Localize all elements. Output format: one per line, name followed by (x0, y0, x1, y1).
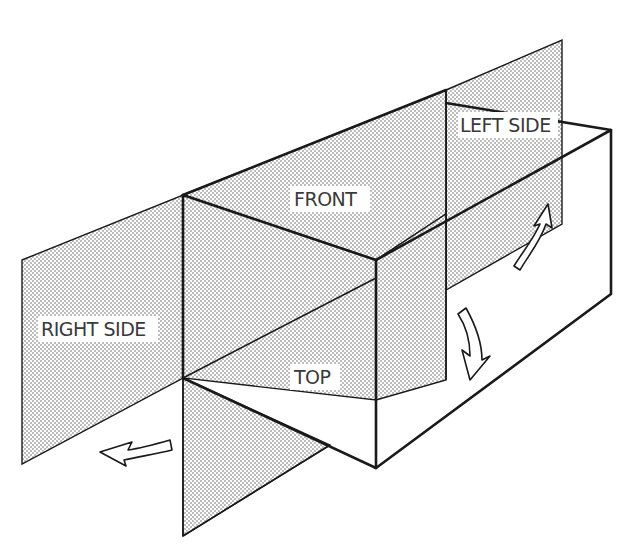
right-side-rotate-arrow-icon (100, 440, 172, 466)
lower-plane (183, 378, 330, 536)
svg-text:FRONT: FRONT (294, 188, 357, 210)
label-right-side: RIGHT SIDE (38, 316, 158, 342)
label-top: TOP (290, 364, 340, 390)
label-left-side: LEFT SIDE (458, 112, 558, 138)
svg-text:RIGHT SIDE: RIGHT SIDE (41, 318, 146, 340)
projection-planes-diagram: LEFT SIDE FRONT RIGHT SIDE TOP (0, 0, 626, 554)
svg-text:TOP: TOP (293, 366, 331, 388)
top-rotate-arrow-icon (458, 308, 490, 380)
left-side-plane (446, 40, 562, 290)
label-front: FRONT (290, 186, 370, 212)
svg-text:LEFT SIDE: LEFT SIDE (460, 114, 551, 136)
